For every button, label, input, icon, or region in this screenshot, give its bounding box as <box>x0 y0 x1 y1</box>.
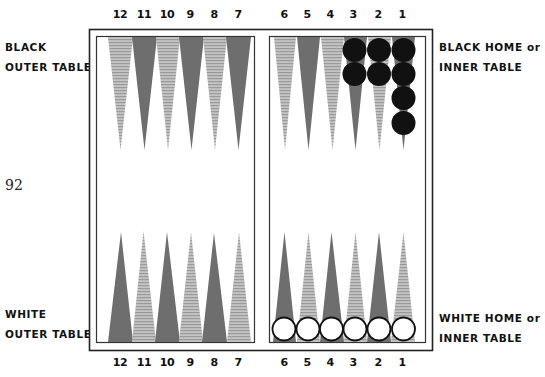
white-checker <box>344 318 367 341</box>
white-checker <box>392 318 415 341</box>
white-checker <box>297 318 320 341</box>
black-checker <box>367 62 391 86</box>
black-checker <box>392 38 416 62</box>
black-checker <box>392 86 416 110</box>
black-checker <box>392 111 416 135</box>
black-checker <box>392 62 416 86</box>
black-checker <box>343 38 367 62</box>
white-checker <box>320 318 343 341</box>
black-checker <box>343 62 367 86</box>
backgammon-board <box>0 0 545 377</box>
black-checker <box>367 38 391 62</box>
white-checker <box>368 318 391 341</box>
white-checker <box>273 318 296 341</box>
